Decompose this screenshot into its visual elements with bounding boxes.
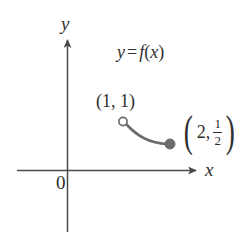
function-label-close-paren: ): [158, 42, 164, 62]
fraction-denominator: 2: [213, 134, 222, 148]
fraction-numerator: 1: [213, 117, 222, 131]
origin-label: 0: [56, 173, 66, 192]
function-label-lhs: y: [117, 42, 125, 62]
y-axis-label: y: [61, 14, 69, 33]
x-axis-label: x: [205, 160, 213, 179]
closed-point-fraction: 1 2: [213, 117, 222, 147]
closed-point-label: ( 2, 1 2 ): [181, 110, 238, 154]
open-point-label: (1, 1): [96, 92, 135, 110]
math-figure: y x 0 y=f(x) (1, 1) ( 2, 1 2 ): [0, 0, 240, 243]
open-point-marker: [119, 117, 127, 125]
closed-point-contents: 2, 1 2: [196, 117, 224, 147]
function-curve: [126, 124, 167, 144]
function-label-arg: x: [150, 42, 158, 62]
function-label-equals: =: [125, 42, 139, 62]
function-label: y=f(x): [117, 43, 164, 61]
closed-point-x-value: 2: [197, 123, 206, 141]
closed-point-marker: [165, 139, 175, 149]
closed-point-comma: ,: [206, 123, 214, 141]
closed-point-close-paren: ): [226, 116, 235, 148]
closed-point-open-paren: (: [184, 116, 193, 148]
